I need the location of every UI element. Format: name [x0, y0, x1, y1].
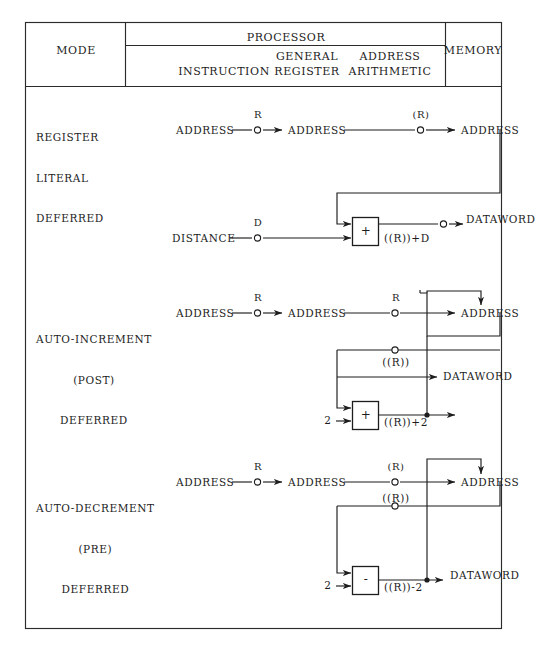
row-label-auto-increment-post-deferred: AUTO-INCREMENT (POST) DEFERRED — [36, 306, 152, 455]
mode-line: DEFERRED — [36, 583, 155, 597]
mode-line: DEFERRED — [36, 414, 152, 428]
row1-node1-label: R — [254, 109, 262, 120]
row3-deref-label: ((R)) — [382, 492, 409, 504]
row3-node2-label: (R) — [387, 461, 404, 472]
row1-distance-label: DISTANCE — [172, 232, 235, 244]
row2-register-address: ADDRESS — [288, 307, 346, 319]
row1-dataword-label: DATAWORD — [466, 213, 536, 225]
row3-dataword-label: DATAWORD — [450, 569, 520, 581]
row2-node2-label: R — [392, 292, 400, 303]
column-header-mode: MODE — [56, 44, 96, 57]
row1-instruction-address: ADDRESS — [176, 124, 234, 136]
row2-result-label: ((R))+2 — [384, 416, 428, 428]
row2-node1-label: R — [254, 292, 262, 303]
mode-line: AUTO-INCREMENT — [36, 333, 152, 347]
row3-operand-label: 2 — [324, 579, 331, 591]
row2-adder-operator: + — [361, 408, 372, 422]
row-label-auto-decrement-pre-deferred: AUTO-DECREMENT (PRE) DEFERRED — [36, 475, 155, 624]
row3-result-label: ((R))-2 — [384, 581, 423, 593]
row2-deref-label: ((R)) — [382, 356, 409, 368]
mode-line: AUTO-DECREMENT — [36, 502, 155, 516]
row-label-register-literal-deferred: REGISTER LITERAL DEFERRED — [36, 104, 104, 253]
figure-canvas: MODE PROCESSOR INSTRUCTION GENERAL REGIS… — [0, 0, 559, 651]
column-header-register: REGISTER — [274, 65, 339, 78]
row1-adder-operator: + — [361, 224, 372, 238]
row2-dataword-label: DATAWORD — [443, 370, 513, 382]
row2-instruction-address: ADDRESS — [176, 307, 234, 319]
column-header-general: GENERAL — [276, 50, 338, 63]
row1-result-label: ((R))+D — [384, 232, 430, 244]
row1-memory-address: ADDRESS — [461, 124, 519, 136]
row2-memory-address: ADDRESS — [461, 307, 519, 319]
row3-memory-address: ADDRESS — [461, 476, 519, 488]
row1-register-address: ADDRESS — [288, 124, 346, 136]
mode-line: REGISTER — [36, 131, 104, 145]
mode-line: DEFERRED — [36, 212, 104, 226]
column-header-memory: MEMORY — [444, 44, 502, 57]
row2-operand-label: 2 — [324, 414, 331, 426]
row3-instruction-address: ADDRESS — [176, 476, 234, 488]
row1-distance-node-label: D — [254, 217, 263, 228]
row3-register-address: ADDRESS — [288, 476, 346, 488]
row3-node1-label: R — [254, 461, 262, 472]
row1-node2-label: (R) — [412, 109, 429, 120]
mode-line: LITERAL — [36, 172, 104, 186]
mode-line: (PRE) — [36, 543, 155, 557]
column-header-address: ADDRESS — [360, 50, 421, 63]
row3-subtractor-operator: - — [364, 572, 369, 586]
mode-line: (POST) — [36, 374, 152, 388]
column-header-processor: PROCESSOR — [247, 31, 326, 44]
column-header-instruction: INSTRUCTION — [178, 65, 270, 78]
column-header-arithmetic: ARITHMETIC — [349, 65, 432, 78]
